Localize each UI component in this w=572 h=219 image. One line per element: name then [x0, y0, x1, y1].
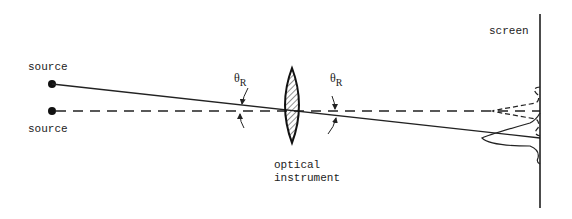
screen-label: screen [489, 25, 529, 37]
lens-icon [276, 66, 308, 146]
solid-intensity-pattern [482, 113, 540, 164]
angle-right-label: θR [330, 71, 343, 88]
instrument-label-line2: instrument [274, 172, 340, 184]
diagram-canvas: source source θR θR optical instrument s… [0, 0, 572, 219]
source-bottom-dot [48, 107, 56, 115]
source-bottom-label: source [28, 123, 68, 135]
instrument-label-line1: optical [274, 159, 320, 171]
source-top-label: source [28, 61, 68, 73]
angle-left-label: θR [234, 71, 247, 88]
angle-left-arc [240, 88, 248, 128]
